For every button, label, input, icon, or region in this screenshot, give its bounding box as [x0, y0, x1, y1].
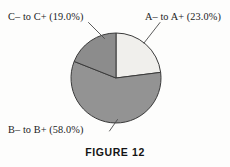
- pie-slices: [71, 33, 161, 123]
- pie-label-a: A– to A+ (23.0%): [145, 11, 221, 23]
- pie-label-c: C– to C+ (19.0%): [8, 11, 83, 23]
- leader-line-a: [144, 23, 160, 44]
- leader-line-c: [89, 23, 105, 39]
- pie-slice-a[interactable]: [116, 33, 161, 78]
- pie-chart: C– to C+ (19.0%) A– to A+ (23.0%) B– to …: [0, 0, 230, 167]
- pie-label-b: B– to B+ (58.0%): [8, 124, 83, 136]
- figure-container: C– to C+ (19.0%) A– to A+ (23.0%) B– to …: [0, 0, 230, 167]
- figure-caption: FIGURE 12: [0, 146, 230, 158]
